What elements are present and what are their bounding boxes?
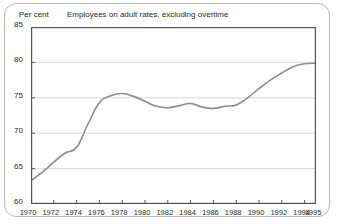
axis-tick-marks [31, 27, 316, 204]
line-chart-svg [31, 27, 316, 204]
data-series-line [31, 63, 316, 181]
x-axis-tick-1995: 1995 [300, 208, 326, 217]
plot-top-border [31, 27, 316, 28]
plot-area [31, 27, 316, 204]
y-axis-tick-65: 65 [7, 161, 23, 170]
y-axis-line [31, 27, 32, 204]
y-axis-tick-60: 60 [7, 197, 23, 206]
plot-right-border [315, 27, 316, 204]
y-axis-tick-70: 70 [7, 126, 23, 135]
x-axis-line [31, 203, 316, 204]
y-axis-unit-label: Per cent [19, 10, 49, 19]
y-axis-tick-80: 80 [7, 55, 23, 64]
chart-title: Employees on adult rates, excluding over… [67, 10, 228, 19]
y-axis-tick-75: 75 [7, 90, 23, 99]
y-axis-tick-85: 85 [7, 20, 23, 29]
chart-frame: Per cent Employees on adult rates, exclu… [4, 3, 330, 217]
